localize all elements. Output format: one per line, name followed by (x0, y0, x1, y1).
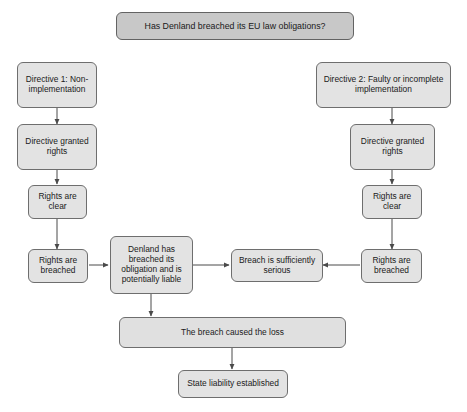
node-right-directive-granted-rights: Directive granted rights (350, 124, 435, 170)
node-question-title-label: Has Denland breached its EU law obligati… (145, 21, 326, 31)
flowchart-canvas: Has Denland breached its EU law obligati… (0, 0, 467, 412)
node-left-rights-are-clear-label: Rights are clear (32, 192, 83, 212)
node-denland-potentially-liable: Denland has breached its obligation and … (110, 236, 193, 294)
node-left-rights-are-breached: Rights are breached (28, 249, 88, 283)
node-breach-caused-loss: The breach caused the loss (119, 317, 346, 348)
node-right-directive-granted-rights-label: Directive granted rights (354, 137, 431, 157)
node-right-rights-are-breached-label: Rights are breached (365, 256, 418, 276)
node-breach-sufficiently-serious: Breach is sufficiently serious (231, 249, 323, 282)
node-left-rights-are-breached-label: Rights are breached (32, 256, 84, 276)
node-right-rights-are-breached: Rights are breached (361, 249, 422, 283)
node-state-liability-established: State liability established (178, 370, 288, 398)
node-state-liability-established-label: State liability established (187, 379, 279, 389)
node-denland-potentially-liable-label: Denland has breached its obligation and … (114, 245, 189, 285)
node-directive-1: Directive 1: Non-implementation (17, 62, 97, 108)
node-right-rights-are-clear-label: Rights are clear (366, 192, 418, 212)
node-breach-caused-loss-label: The breach caused the loss (181, 328, 284, 338)
node-directive-2-label: Directive 2: Faulty or incomplete implem… (320, 75, 447, 95)
node-left-directive-granted-rights-label: Directive granted rights (21, 137, 93, 157)
node-directive-2: Directive 2: Faulty or incomplete implem… (316, 62, 451, 108)
node-left-directive-granted-rights: Directive granted rights (17, 124, 97, 170)
node-directive-1-label: Directive 1: Non-implementation (21, 75, 93, 95)
node-right-rights-are-clear: Rights are clear (362, 185, 422, 219)
node-question-title: Has Denland breached its EU law obligati… (116, 12, 354, 40)
node-left-rights-are-clear: Rights are clear (28, 185, 87, 219)
node-breach-sufficiently-serious-label: Breach is sufficiently serious (235, 256, 319, 276)
